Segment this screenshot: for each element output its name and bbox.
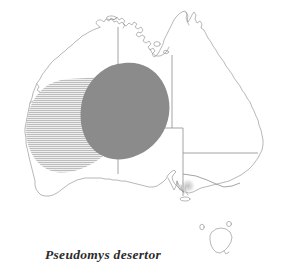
arnhem-land-coast [112, 19, 125, 28]
species-distribution-figure: Pseudomys desertor [0, 0, 285, 279]
core-range-solid [81, 63, 170, 160]
king-island-outline [200, 224, 204, 230]
tasmania-southeast-detail [224, 251, 229, 254]
figure-caption-species-name: Pseudomys desertor [45, 247, 161, 263]
flinders-island-outline [227, 221, 232, 226]
distribution-ranges [26, 63, 169, 173]
north-west-cape-coast [37, 84, 40, 92]
kangaroo-island-outline [180, 197, 190, 201]
australia-distribution-map [0, 0, 285, 279]
tasmania-outline [210, 228, 232, 253]
groote-eylandt-outline [154, 42, 160, 47]
